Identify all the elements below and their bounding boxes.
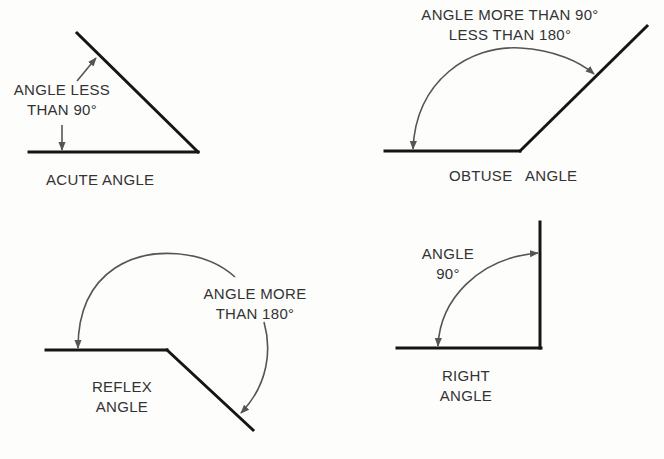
reflex-annotation-line-2: THAN 180° <box>180 304 330 324</box>
right-annotation-line-2: 90° <box>408 264 488 284</box>
obtuse-arc-arrow-icon <box>413 48 594 149</box>
acute-arrow-up-icon <box>77 58 96 81</box>
obtuse-annotation-line-2: LESS THAN 180° <box>400 25 620 45</box>
reflex-title-line-1: REFLEX <box>82 377 162 397</box>
right-title: RIGHT ANGLE <box>426 366 506 406</box>
right-angle-figure <box>397 222 541 348</box>
acute-annotation: ANGLE LESS THAN 90° <box>2 80 122 120</box>
right-title-line-1: RIGHT <box>426 366 506 386</box>
angle-types-diagram: ANGLE LESS THAN 90° ACUTE ANGLE ANGLE MO… <box>0 0 664 459</box>
reflex-title-line-2: ANGLE <box>82 397 162 417</box>
acute-title: ACUTE ANGLE <box>46 170 154 190</box>
reflex-title: REFLEX ANGLE <box>82 377 162 417</box>
right-annotation: ANGLE 90° <box>408 244 488 284</box>
reflex-slanted-ray <box>167 350 253 430</box>
obtuse-annotation-line-1: ANGLE MORE THAN 90° <box>400 5 620 25</box>
reflex-annotation-line-1: ANGLE MORE <box>180 284 330 304</box>
reflex-lower-arc-arrow-icon <box>241 322 268 413</box>
obtuse-title: OBTUSE ANGLE <box>449 166 577 186</box>
obtuse-annotation: ANGLE MORE THAN 90° LESS THAN 180° <box>400 5 620 45</box>
reflex-annotation: ANGLE MORE THAN 180° <box>180 284 330 324</box>
acute-annotation-line-2: THAN 90° <box>2 100 122 120</box>
acute-annotation-line-1: ANGLE LESS <box>2 80 122 100</box>
right-title-line-2: ANGLE <box>426 386 506 406</box>
right-annotation-line-1: ANGLE <box>408 244 488 264</box>
